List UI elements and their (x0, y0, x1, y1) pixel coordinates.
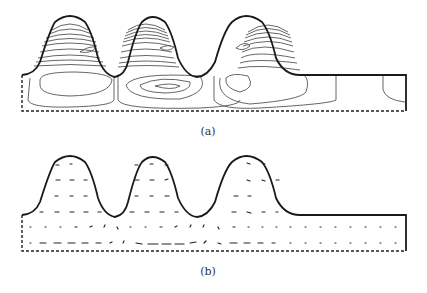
velocity-arrows (30, 163, 396, 244)
panel-a (22, 16, 406, 111)
contour-lines (28, 24, 405, 108)
dashed-boundary-b (22, 215, 406, 251)
figure-canvas (0, 0, 427, 293)
panel-a-label: (a) (188, 125, 228, 138)
outline-b (22, 156, 406, 251)
panel-b (22, 156, 406, 251)
panel-b-label: (b) (188, 265, 228, 278)
